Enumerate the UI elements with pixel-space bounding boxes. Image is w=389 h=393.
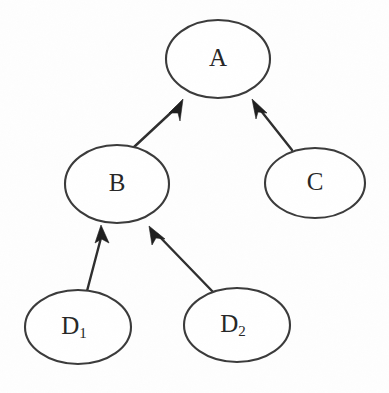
arrowhead-d2-b — [149, 226, 165, 245]
edge-c-to-a — [252, 99, 292, 150]
node-b-label: B — [109, 169, 126, 196]
node-group: A B C D1 — [25, 20, 365, 364]
node-d1-subscript: 1 — [79, 325, 87, 341]
diagram-canvas: A B C D1 — [0, 0, 389, 393]
edge-d1-to-b — [87, 225, 109, 291]
edge-line-d1-b — [87, 234, 102, 291]
node-c-label: C — [307, 168, 324, 195]
node-b[interactable]: B — [65, 145, 169, 223]
node-a[interactable]: A — [166, 20, 270, 98]
node-d1[interactable]: D1 — [25, 290, 131, 364]
arrowhead-d1-b — [95, 225, 109, 243]
edge-b-to-a — [134, 99, 183, 147]
edge-d2-to-b — [149, 226, 214, 293]
edge-line-c-a — [258, 107, 292, 150]
directed-graph: A B C D1 — [0, 0, 389, 393]
node-a-label: A — [209, 44, 227, 71]
arrowhead-b-a — [169, 99, 183, 121]
node-d2-subscript: 2 — [238, 323, 246, 339]
edge-line-d2-b — [157, 234, 214, 293]
node-c[interactable]: C — [265, 148, 365, 218]
node-d2[interactable]: D2 — [184, 288, 290, 362]
